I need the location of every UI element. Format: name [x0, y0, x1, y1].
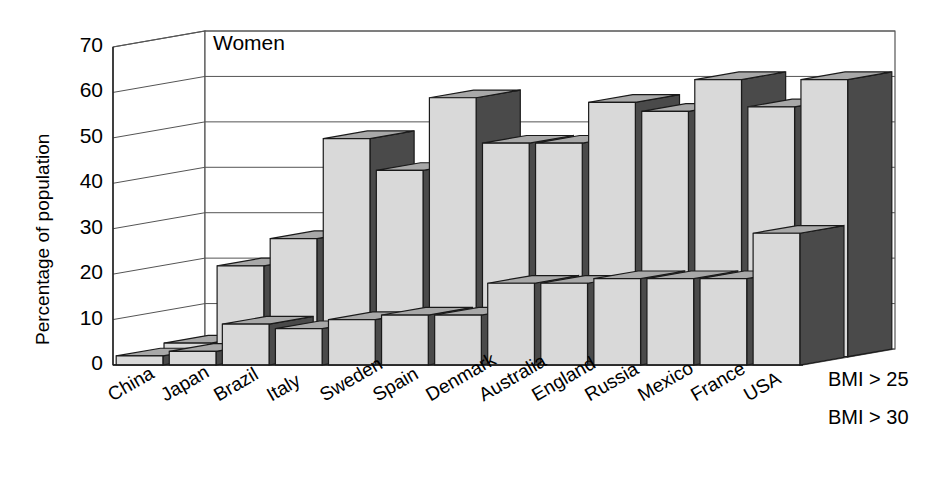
y-tick-60: 60: [55, 78, 103, 102]
panel-title: Women: [213, 31, 285, 55]
y-tick-40: 40: [55, 169, 103, 193]
y-tick-0: 0: [55, 351, 103, 375]
y-tick-10: 10: [55, 306, 103, 330]
y-axis-title: Percentage of population: [32, 134, 54, 345]
y-tick-30: 30: [55, 215, 103, 239]
bar-chart-3d: [0, 0, 951, 492]
bar-usa-series1: [753, 226, 844, 365]
chart-canvas: Percentage of population Women 706050403…: [0, 0, 951, 492]
y-tick-20: 20: [55, 260, 103, 284]
y-tick-50: 50: [55, 124, 103, 148]
y-tick-70: 70: [55, 33, 103, 57]
legend-item-bmi-25: BMI > 25: [828, 368, 909, 391]
legend-item-bmi-30: BMI > 30: [828, 406, 909, 429]
